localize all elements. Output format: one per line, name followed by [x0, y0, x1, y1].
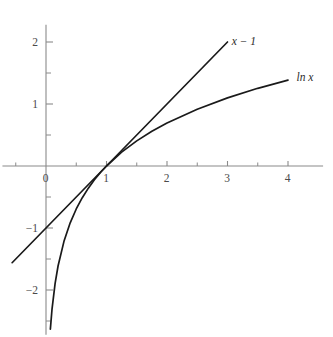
curve-natural-log: [50, 80, 288, 329]
y-axis-minor-ticks: [46, 73, 51, 321]
y-tick-label: 2: [32, 36, 38, 48]
curve-label: x − 1: [231, 35, 256, 47]
x-tick-label: 3: [224, 172, 230, 184]
figure-container: 01234 −2−112 x − 1ln x: [0, 0, 333, 337]
x-tick-label: 1: [103, 172, 109, 184]
y-tick-label: −2: [26, 284, 38, 296]
y-tick-label: 1: [32, 98, 38, 110]
x-tick-label: 2: [164, 172, 170, 184]
x-axis-tick-labels: 01234: [43, 172, 291, 184]
curve-label: ln x: [296, 71, 314, 83]
function-graph-plot: 01234 −2−112 x − 1ln x: [0, 0, 333, 337]
curve-annotations: x − 1ln x: [231, 35, 315, 84]
x-tick-label: 0: [43, 172, 49, 184]
curve-linear-x-minus-1: [12, 42, 227, 263]
x-tick-label: 4: [285, 172, 291, 184]
y-tick-label: −1: [26, 222, 38, 234]
series-group: [12, 42, 288, 329]
